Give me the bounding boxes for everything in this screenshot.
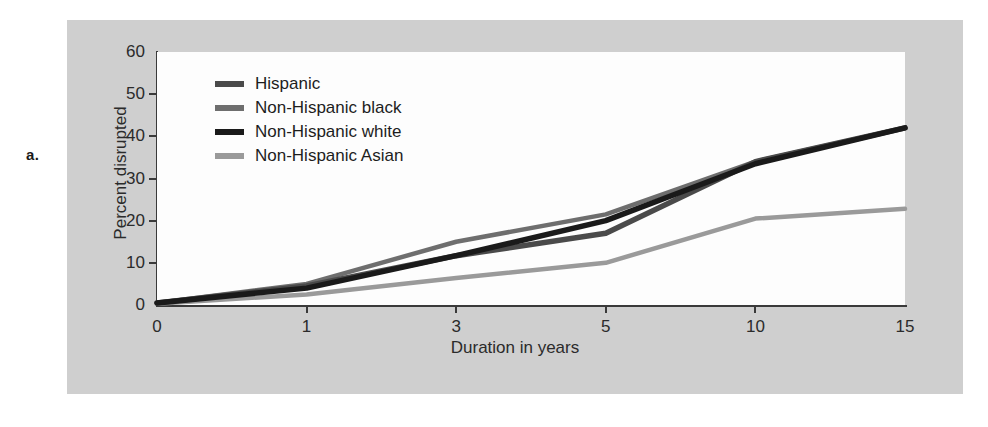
x-axis-line — [156, 305, 907, 307]
y-tick-label: 20 — [111, 211, 145, 231]
y-tick-mark — [149, 262, 157, 264]
legend-item: Non-Hispanic Asian — [215, 144, 403, 168]
x-tick-label: 10 — [735, 317, 775, 337]
figure-panel-label: a. — [26, 146, 39, 163]
legend-label: Non-Hispanic black — [255, 98, 401, 118]
legend-swatch-icon — [215, 129, 244, 135]
y-tick-mark — [149, 93, 157, 95]
x-tick-label: 15 — [885, 317, 925, 337]
legend-label: Non-Hispanic Asian — [255, 146, 403, 166]
x-tick-label: 5 — [586, 317, 626, 337]
y-tick-label: 10 — [111, 253, 145, 273]
x-tick-label: 1 — [287, 317, 327, 337]
y-tick-mark — [149, 178, 157, 180]
y-tick-label: 60 — [111, 42, 145, 62]
legend-item: Hispanic — [215, 72, 403, 96]
chart-panel: Percent disrupted 0102030405060 01351015… — [67, 20, 963, 394]
y-tick-mark — [149, 220, 157, 222]
legend-swatch-icon — [215, 81, 244, 87]
chart-legend: HispanicNon-Hispanic blackNon-Hispanic w… — [215, 72, 403, 168]
y-tick-label: 40 — [111, 126, 145, 146]
y-tick-mark — [149, 135, 157, 137]
x-tick-mark — [754, 305, 756, 313]
x-tick-label: 3 — [436, 317, 476, 337]
legend-label: Hispanic — [255, 74, 320, 94]
y-tick-label: 50 — [111, 84, 145, 104]
legend-item: Non-Hispanic white — [215, 120, 403, 144]
legend-swatch-icon — [215, 105, 244, 111]
x-tick-mark — [455, 305, 457, 313]
legend-item: Non-Hispanic black — [215, 96, 403, 120]
x-axis-title: Duration in years — [67, 338, 963, 358]
y-tick-label: 0 — [111, 295, 145, 315]
x-tick-mark — [306, 305, 308, 313]
x-tick-mark — [605, 305, 607, 313]
x-tick-label: 0 — [137, 317, 177, 337]
legend-label: Non-Hispanic white — [255, 122, 401, 142]
legend-swatch-icon — [215, 153, 244, 159]
y-tick-label: 30 — [111, 169, 145, 189]
